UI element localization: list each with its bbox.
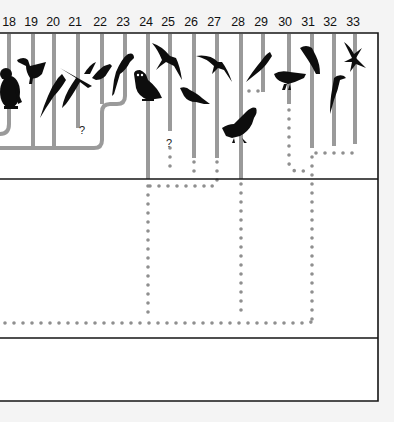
column-label-27: 27 [207,15,220,29]
column-label-21: 21 [68,15,81,29]
phylogeny-diagram: 18 19 20 21 22 23 24 25 26 27 28 29 30 3… [0,0,394,422]
uncertain-marker-21: ? [79,124,85,136]
column-label-23: 23 [116,15,129,29]
column-label-19: 19 [24,15,37,29]
column-label-28: 28 [231,15,244,29]
column-label-31: 31 [301,15,314,29]
column-label-32: 32 [323,15,336,29]
column-label-24: 24 [139,15,152,29]
column-label-33: 33 [346,15,359,29]
column-label-26: 26 [184,15,197,29]
column-label-22: 22 [93,15,106,29]
tree-canvas [0,0,394,422]
column-label-29: 29 [254,15,267,29]
column-label-20: 20 [46,15,59,29]
column-label-25: 25 [161,15,174,29]
column-label-30: 30 [278,15,291,29]
uncertain-marker-25: ? [166,137,172,149]
column-label-18: 18 [2,15,15,29]
